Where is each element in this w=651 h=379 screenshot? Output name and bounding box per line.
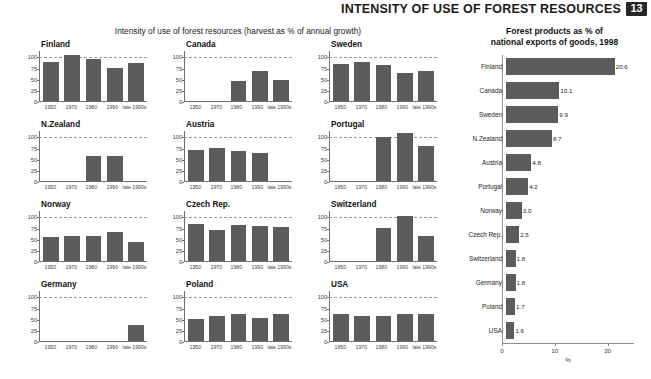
- panel-bar-slot: [61, 51, 82, 101]
- panel-x-tick-label: 1980: [81, 184, 101, 190]
- small-multiples-grid: Finland10075502501950197019801990late 19…: [12, 40, 458, 360]
- panel-x-tick-label: 1990: [102, 344, 122, 350]
- exports-bar-track: 3.0: [506, 199, 644, 223]
- panel-x-tick-label: 1970: [206, 344, 226, 350]
- panel-bar-slot: [373, 51, 394, 101]
- page-number-badge: 13: [626, 2, 647, 16]
- panel-title: Portugal: [331, 120, 364, 129]
- exports-bar-track: 10.1: [506, 79, 644, 103]
- panel-y-tick-mark: [182, 320, 184, 321]
- panel-y-tick-mark: [327, 160, 329, 161]
- panel-y-tick-mark: [182, 182, 184, 183]
- panel-bar-slot: [330, 131, 351, 181]
- panel-x-tick-label: late 1990s: [268, 184, 292, 190]
- panel-bar-slot: [271, 131, 292, 181]
- panel-bar-slot: [185, 211, 206, 261]
- panel-x-axis-line: [329, 341, 437, 342]
- small-multiples-section: Intensity of use of forest resources (ha…: [8, 26, 458, 360]
- panel-x-tick-label: 1950: [330, 264, 350, 270]
- panel-x-tick-label: 1980: [226, 264, 246, 270]
- panel-bar: [209, 316, 225, 341]
- panel-bar-slot: [416, 51, 437, 101]
- panel-title: Norway: [41, 200, 71, 209]
- panel-x-axis-line: [39, 341, 147, 342]
- panel-n-zealand: N.Zealand10075502501950197019801990late …: [12, 120, 157, 200]
- panel-bar-slot: [83, 211, 104, 261]
- panel-y-tick-mark: [182, 80, 184, 81]
- panel-bar-slot: [394, 291, 415, 341]
- panel-x-tick-label: 1950: [330, 344, 350, 350]
- exports-bar-value-label: 2.5: [520, 231, 529, 238]
- exports-x-tick-mark: [608, 344, 609, 346]
- panel-bar: [418, 71, 434, 101]
- panel-plot-area: 1007550250: [184, 291, 292, 342]
- panel-bar-slot: [394, 131, 415, 181]
- panel-y-tick-mark: [182, 309, 184, 310]
- exports-bar-row: Canada10.1: [464, 79, 644, 103]
- panel-bar-slot: [271, 211, 292, 261]
- panel-canada: Canada10075502501950197019801990late 199…: [157, 40, 302, 120]
- panel-bars: [330, 51, 437, 101]
- panel-x-tick-label: late 1990s: [268, 104, 292, 110]
- panel-bar-slot: [228, 51, 249, 101]
- exports-bar: [506, 250, 516, 267]
- panel-bar-slot: [351, 211, 372, 261]
- panel-bar-slot: [83, 51, 104, 101]
- panel-x-tick-label: late 1990s: [123, 264, 147, 270]
- panel-bar-slot: [228, 291, 249, 341]
- panel-y-tick-mark: [327, 182, 329, 183]
- panel-bar-slot: [373, 211, 394, 261]
- exports-x-tick-label: 0: [500, 347, 503, 354]
- panel-bar-slot: [83, 291, 104, 341]
- panel-x-tick-label: 1950: [40, 344, 60, 350]
- panel-x-tick-label: 1980: [226, 184, 246, 190]
- exports-bar-row: Germany1.8: [464, 271, 644, 295]
- panel-bars: [330, 131, 437, 181]
- panel-bars: [330, 291, 437, 341]
- panel-x-axis-line: [39, 101, 147, 102]
- panel-bar: [231, 81, 247, 101]
- panel-y-tick-mark: [37, 102, 39, 103]
- panel-x-axis-line: [39, 181, 147, 182]
- exports-bar-track: 9.9: [506, 103, 644, 127]
- panel-bar-slot: [104, 211, 125, 261]
- panel-bars: [40, 131, 147, 181]
- panel-x-tick-label: 1980: [81, 264, 101, 270]
- panel-bar-slot: [330, 291, 351, 341]
- panel-bar: [64, 55, 80, 101]
- panel-title: Sweden: [331, 40, 362, 49]
- exports-bar-value-label: 10.1: [560, 87, 572, 94]
- panel-y-tick-label: 100: [28, 134, 37, 140]
- panel-bar-slot: [40, 51, 61, 101]
- exports-bar-value-label: 9.9: [559, 111, 568, 118]
- panel-x-tick-label: 1950: [40, 264, 60, 270]
- panel-x-tick-labels: 1950197019801990late 1990s: [330, 104, 437, 110]
- panel-x-axis-line: [329, 101, 437, 102]
- panel-y-tick-mark: [37, 149, 39, 150]
- panel-plot-area: 1007550250: [329, 291, 437, 342]
- panel-x-tick-label: late 1990s: [413, 344, 437, 350]
- panel-y-tick-mark: [182, 262, 184, 263]
- exports-bar-row: Switzerland1.8: [464, 247, 644, 271]
- exports-x-tick-mark: [555, 344, 556, 346]
- panel-bar-slot: [373, 291, 394, 341]
- panel-bars: [330, 211, 437, 261]
- exports-category-label: Czech Rep.: [464, 231, 506, 238]
- panel-x-tick-label: 1950: [40, 184, 60, 190]
- panel-y-tick-mark: [37, 69, 39, 70]
- panel-x-axis-line: [329, 261, 437, 262]
- exports-bar-track: 2.5: [506, 223, 644, 247]
- panel-bar-slot: [416, 291, 437, 341]
- panel-y-tick-mark: [327, 69, 329, 70]
- panel-bar-slot: [373, 131, 394, 181]
- panel-title: Canada: [186, 40, 216, 49]
- panel-y-tick-mark: [37, 229, 39, 230]
- exports-bar: [506, 82, 559, 99]
- panel-bar-slot: [126, 51, 147, 101]
- panel-title: Germany: [41, 280, 77, 289]
- exports-x-tick-label: 10: [551, 347, 558, 354]
- panel-bar: [188, 150, 204, 181]
- panel-bar: [128, 325, 144, 341]
- panel-y-tick-mark: [37, 331, 39, 332]
- exports-bar-track: 1.8: [506, 271, 644, 295]
